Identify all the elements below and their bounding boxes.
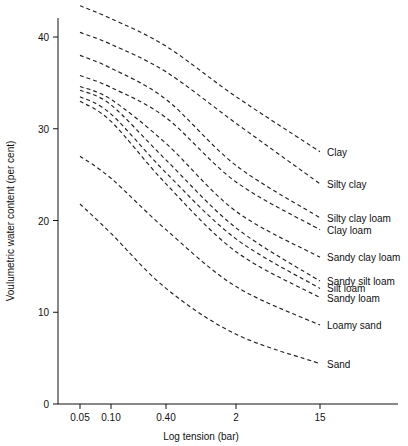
- series-label-sandy-loam: Sandy loam: [327, 293, 380, 304]
- x-tick-label: 0.40: [156, 412, 176, 423]
- x-tick-label: 0.05: [70, 412, 90, 423]
- y-tick-label: 30: [38, 124, 50, 135]
- series-label-sandy-clay-loam: Sandy clay loam: [327, 252, 400, 263]
- soil-water-retention-chart: 0102030400.050.100.40215 ClaySilty clayS…: [0, 0, 408, 446]
- y-tick-label: 20: [38, 216, 50, 227]
- curve-silty-clay-loam: [80, 55, 320, 217]
- curve-clay: [80, 6, 320, 152]
- x-axis-title: Log tension (bar): [163, 431, 239, 442]
- y-tick-label: 40: [38, 32, 50, 43]
- x-tick-label: 2: [233, 412, 239, 423]
- series-label-clay: Clay: [327, 147, 347, 158]
- y-axis-title: Voulumetric water content (per cent): [5, 141, 16, 302]
- series-label-silty-clay-loam: Silty clay loam: [327, 213, 391, 224]
- series-label-clay-loam: Clay loam: [327, 225, 371, 236]
- axis-lines: [58, 18, 398, 404]
- series-labels-group: ClaySilty claySilty clay loamClay loamSa…: [327, 147, 400, 370]
- curve-sandy-clay-loam: [80, 87, 320, 258]
- curve-sand: [80, 204, 320, 364]
- x-tick-label: 0.10: [101, 412, 121, 423]
- x-tick-label: 15: [314, 412, 326, 423]
- series-label-sand: Sand: [327, 359, 350, 370]
- chart-canvas: 0102030400.050.100.40215 ClaySilty clayS…: [0, 0, 408, 446]
- series-label-loamy-sand: Loamy sand: [327, 320, 381, 331]
- curves-group: [80, 6, 320, 364]
- series-label-silty-clay: Silty clay: [327, 179, 366, 190]
- y-tick-label: 10: [38, 307, 50, 318]
- y-tick-label: 0: [43, 399, 49, 410]
- curve-silty-clay: [80, 32, 320, 183]
- curve-loamy-sand: [80, 156, 320, 325]
